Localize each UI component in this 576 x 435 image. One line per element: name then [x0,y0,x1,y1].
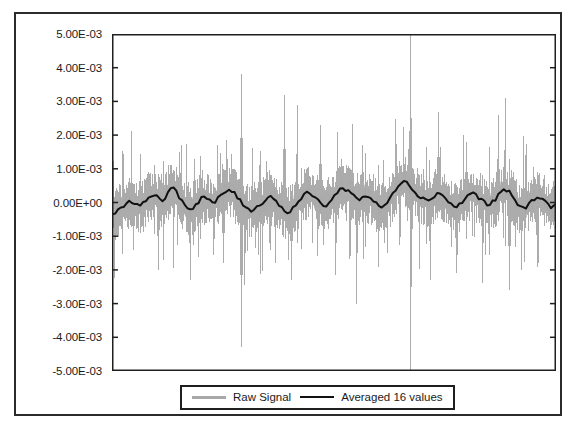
legend-entry-raw-signal: Raw Signal [192,391,291,403]
y-axis-tick-label: 5.00E-03 [56,28,102,40]
chart-figure-frame: 5.00E-034.00E-033.00E-032.00E-031.00E-03… [14,12,562,416]
y-axis-tick-labels: 5.00E-034.00E-033.00E-032.00E-031.00E-03… [16,34,110,371]
y-axis-tick-label: -3.00E-03 [52,298,102,310]
y-axis-tick-label: 4.00E-03 [56,62,102,74]
legend-label-raw-signal: Raw Signal [233,391,291,403]
plot-area [112,34,556,371]
y-axis-tick-label: -1.00E-03 [52,230,102,242]
y-axis-tick-label: 3.00E-03 [56,95,102,107]
legend-entry-averaged: Averaged 16 values [300,391,442,403]
y-axis-tick-label: 1.00E-03 [56,163,102,175]
legend-label-averaged: Averaged 16 values [341,391,442,403]
signal-plot-svg [112,34,556,371]
y-axis-tick-label: -5.00E-03 [52,365,102,377]
raw-signal-line-sample-icon [192,396,226,399]
chart-legend: Raw Signal Averaged 16 values [180,385,455,410]
y-axis-tick-label: -2.00E-03 [52,264,102,276]
y-axis-tick-label: 2.00E-03 [56,129,102,141]
averaged-line-sample-icon [300,396,334,398]
y-axis-tick-label: 0.00E+00 [53,197,102,209]
y-axis-tick-label: -4.00E-03 [52,331,102,343]
